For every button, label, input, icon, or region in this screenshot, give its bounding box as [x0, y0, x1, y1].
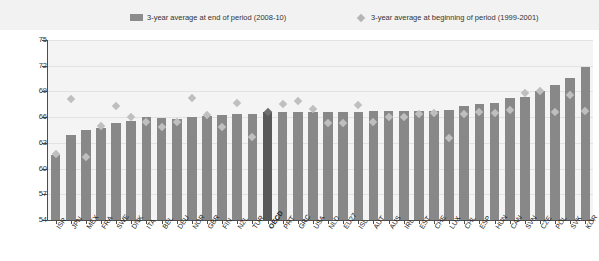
bar	[550, 85, 560, 220]
bar	[429, 111, 439, 220]
bar	[111, 123, 121, 220]
bar	[232, 114, 242, 220]
bar	[459, 106, 469, 220]
bar	[126, 121, 136, 220]
bar-column[interactable]	[263, 40, 273, 220]
bar-column[interactable]	[278, 40, 288, 220]
y-tick-label: 63	[17, 138, 47, 147]
legend-entry-end-of-period: 3-year average at end of period (2008-10…	[130, 13, 286, 22]
bar-column[interactable]	[157, 40, 167, 220]
y-tick-label: 66	[17, 112, 47, 121]
bar-column[interactable]	[293, 40, 303, 220]
bar	[444, 110, 454, 220]
bar-column[interactable]	[66, 40, 76, 220]
bar-column[interactable]	[111, 40, 121, 220]
bar-column[interactable]	[550, 40, 560, 220]
bar	[369, 111, 379, 220]
bar	[520, 97, 530, 220]
bar	[96, 128, 106, 220]
bar	[399, 111, 409, 220]
y-tick-label: 54	[17, 215, 47, 224]
bar-column[interactable]	[232, 40, 242, 220]
y-tick-label: 57	[17, 189, 47, 198]
bar-column[interactable]	[475, 40, 485, 220]
bar	[66, 135, 76, 220]
diamond-swatch-icon	[357, 13, 365, 21]
bar-column[interactable]	[142, 40, 152, 220]
bar-column[interactable]	[323, 40, 333, 220]
bar-column[interactable]	[581, 40, 591, 220]
chart-legend: 3-year average at end of period (2008-10…	[0, 0, 599, 30]
y-tick-label: 60	[17, 164, 47, 173]
legend-entry-beginning-of-period: 3-year average at beginning of period (1…	[355, 13, 539, 22]
bar-column[interactable]	[444, 40, 454, 220]
bar-column[interactable]	[187, 40, 197, 220]
diamond-marker	[233, 98, 241, 106]
bar-column[interactable]	[338, 40, 348, 220]
bar	[414, 111, 424, 220]
bar	[565, 78, 575, 220]
diamond-marker	[112, 102, 120, 110]
bar-column[interactable]	[459, 40, 469, 220]
y-tick-label: 69	[17, 86, 47, 95]
diamond-marker	[188, 94, 196, 102]
y-tick-label: 72	[17, 61, 47, 70]
bar-column[interactable]	[81, 40, 91, 220]
diamond-marker	[66, 95, 74, 103]
bar-column[interactable]	[248, 40, 258, 220]
bar-column[interactable]	[429, 40, 439, 220]
bar-column[interactable]	[535, 40, 545, 220]
bar-column[interactable]	[217, 40, 227, 220]
bar	[490, 103, 500, 220]
y-tick-label: 75	[17, 35, 47, 44]
diamond-marker	[127, 113, 135, 121]
bar-column[interactable]	[126, 40, 136, 220]
diamond-marker	[354, 101, 362, 109]
bar	[142, 117, 152, 220]
bar	[535, 91, 545, 220]
bar-column[interactable]	[414, 40, 424, 220]
bar	[308, 112, 318, 220]
bar	[278, 112, 288, 220]
bar-column[interactable]	[565, 40, 575, 220]
bar	[354, 112, 364, 220]
legend-label-beginning-of-period: 3-year average at beginning of period (1…	[371, 13, 539, 22]
bar	[248, 114, 258, 220]
bar-column[interactable]	[202, 40, 212, 220]
bar	[338, 112, 348, 220]
bar	[202, 116, 212, 220]
bar-column[interactable]	[399, 40, 409, 220]
bar	[263, 112, 273, 220]
bar-swatch-icon	[130, 14, 143, 21]
bar	[293, 112, 303, 220]
legend-label-end-of-period: 3-year average at end of period (2008-10…	[147, 13, 286, 22]
bar	[581, 67, 591, 220]
bar	[505, 98, 515, 220]
bar-column[interactable]	[308, 40, 318, 220]
bar	[323, 112, 333, 220]
bar	[475, 104, 485, 220]
bar	[81, 130, 91, 220]
bar-column[interactable]	[490, 40, 500, 220]
bar	[384, 111, 394, 220]
bar-column[interactable]	[520, 40, 530, 220]
bar-column[interactable]	[505, 40, 515, 220]
bar-column[interactable]	[172, 40, 182, 220]
bar	[157, 118, 167, 220]
diamond-marker	[278, 100, 286, 108]
bar-column[interactable]	[96, 40, 106, 220]
bar-column[interactable]	[51, 40, 61, 220]
chart-root: 3-year average at end of period (2008-10…	[0, 0, 599, 261]
bar-column[interactable]	[369, 40, 379, 220]
diamond-marker	[294, 97, 302, 105]
bar	[172, 119, 182, 220]
bar	[187, 117, 197, 220]
bar-column[interactable]	[354, 40, 364, 220]
bar	[51, 155, 61, 220]
bar-column[interactable]	[384, 40, 394, 220]
bars-layer	[48, 40, 593, 220]
